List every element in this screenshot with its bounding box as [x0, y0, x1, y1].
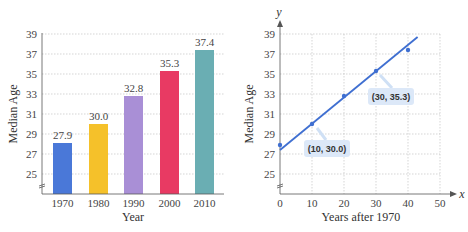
- svg-text:25: 25: [264, 168, 276, 180]
- x-axis-title: Years after 1970: [322, 210, 401, 224]
- svg-text:2010: 2010: [194, 197, 217, 209]
- y-axis-title: Median Age: [242, 85, 256, 144]
- svg-text:31: 31: [26, 108, 37, 120]
- svg-text:37: 37: [264, 48, 276, 60]
- y-axis-title: Median Age: [6, 85, 20, 144]
- svg-text:(30, 35.3): (30, 35.3): [372, 92, 411, 102]
- bar-2010: [195, 50, 214, 194]
- x-axis-arrow-icon: [450, 191, 457, 197]
- svg-text:39: 39: [264, 28, 276, 40]
- svg-text:37: 37: [26, 48, 38, 60]
- svg-text:39: 39: [26, 28, 38, 40]
- svg-text:1980: 1980: [88, 197, 111, 209]
- svg-text:50: 50: [435, 197, 447, 209]
- svg-text:29: 29: [26, 128, 38, 140]
- bar-chart: 27.9 30.0 32.8 35.3 37.4 39 37 35 33 31 …: [6, 28, 224, 224]
- svg-text:30: 30: [371, 197, 383, 209]
- y-axis-letter: y: [275, 5, 282, 19]
- bar-value-label: 37.4: [195, 36, 215, 48]
- svg-text:2000: 2000: [159, 197, 182, 209]
- bar-value-label: 35.3: [160, 57, 180, 69]
- x-tick-labels: 0 10 20 30 40 50: [277, 197, 446, 209]
- svg-text:35: 35: [264, 68, 276, 80]
- svg-text:27: 27: [26, 148, 38, 160]
- x-axis-title: Year: [122, 210, 144, 224]
- svg-text:40: 40: [403, 197, 415, 209]
- svg-text:31: 31: [264, 108, 275, 120]
- callout-30-35-3: (30, 35.3): [368, 75, 414, 105]
- svg-text:(10, 30.0): (10, 30.0): [308, 144, 347, 154]
- bar-value-label: 27.9: [53, 129, 73, 141]
- svg-text:25: 25: [26, 168, 38, 180]
- bar-2000: [160, 71, 179, 194]
- x-axis-letter: x: [458, 187, 465, 201]
- svg-text:1990: 1990: [123, 197, 146, 209]
- x-tick-labels: 1970 1980 1990 2000 2010: [52, 197, 217, 209]
- bar-1970: [53, 143, 72, 194]
- bar-1980: [89, 124, 108, 194]
- figure: 27.9 30.0 32.8 35.3 37.4 39 37 35 33 31 …: [0, 0, 468, 232]
- svg-text:10: 10: [307, 197, 319, 209]
- svg-text:33: 33: [26, 88, 38, 100]
- bar-1990: [124, 96, 143, 194]
- y-axis-arrow-icon: [277, 20, 283, 27]
- gridlines: [280, 34, 440, 194]
- bar-value-label: 32.8: [124, 82, 144, 94]
- y-tick-labels: 39 37 35 33 31 29 27 25: [264, 28, 276, 180]
- svg-text:33: 33: [264, 88, 276, 100]
- svg-text:1970: 1970: [52, 197, 75, 209]
- y-tick-labels: 39 37 35 33 31 29 27 25: [26, 28, 38, 180]
- svg-text:0: 0: [277, 197, 283, 209]
- bar-value-label: 30.0: [89, 110, 109, 122]
- svg-text:29: 29: [264, 128, 276, 140]
- callout-10-30: (10, 30.0): [304, 128, 350, 157]
- svg-text:20: 20: [339, 197, 351, 209]
- svg-text:35: 35: [26, 68, 38, 80]
- svg-text:27: 27: [264, 148, 276, 160]
- scatter-chart: y x (10, 30.0) (30, 35.3) 39 37 35 33: [242, 5, 465, 224]
